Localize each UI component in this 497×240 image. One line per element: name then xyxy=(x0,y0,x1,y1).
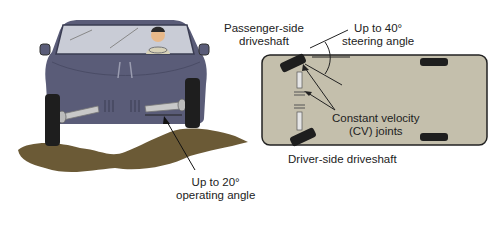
right-tire xyxy=(185,78,200,128)
windshield xyxy=(56,25,194,54)
left-mirror xyxy=(40,44,50,55)
steering-label-line1: Up to 40° xyxy=(342,22,414,35)
passenger-driveshaft-label: Passenger-side driveshaft xyxy=(224,22,304,48)
steering-label-line2: steering angle xyxy=(342,35,414,48)
cv-label-line2: (CV) joints xyxy=(332,125,420,138)
cv-label-line1: Constant velocity xyxy=(332,112,420,125)
operating-angle-line1: Up to 20° xyxy=(176,176,255,189)
rear-tire-top xyxy=(420,58,448,66)
driver-driveshaft-label: Driver-side driveshaft xyxy=(288,153,397,166)
rear-tire-bottom xyxy=(420,133,448,141)
steering-angle-label: Up to 40° steering angle xyxy=(342,22,414,48)
passenger-label-line1: Passenger-side xyxy=(224,22,304,35)
right-mirror xyxy=(199,44,209,55)
left-tire xyxy=(45,94,60,146)
cv-joints-label: Constant velocity (CV) joints xyxy=(332,112,420,138)
operating-angle-label: Up to 20° operating angle xyxy=(176,176,255,202)
operating-angle-line2: operating angle xyxy=(176,189,255,202)
passenger-label-line2: driveshaft xyxy=(224,35,304,48)
